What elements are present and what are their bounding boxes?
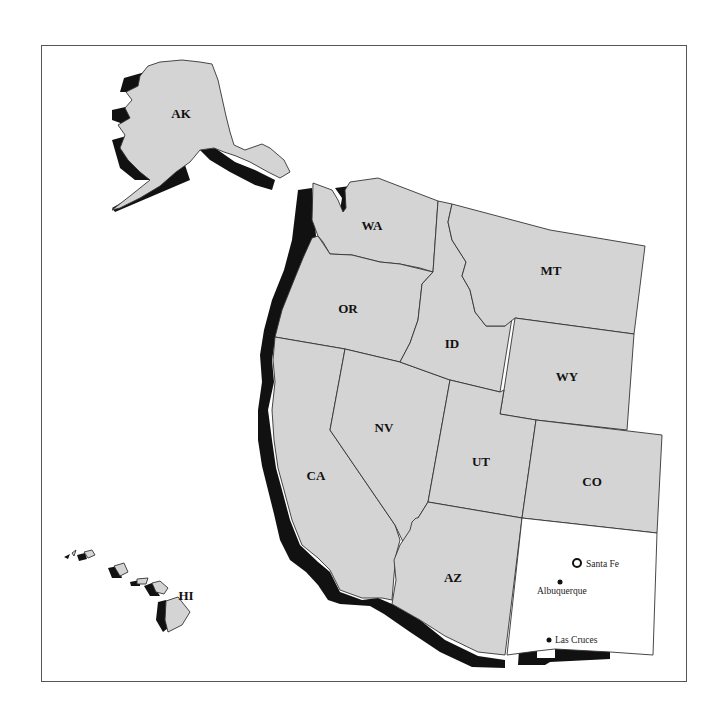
state-mt[interactable]: MT bbox=[448, 204, 645, 334]
city-label-santa-fe: Santa Fe bbox=[586, 559, 619, 569]
label-hi: HI bbox=[178, 588, 193, 603]
city-label-albuquerque: Albuquerque bbox=[537, 586, 587, 596]
label-nv: NV bbox=[375, 420, 394, 435]
state-ak[interactable]: AK bbox=[112, 60, 290, 212]
western-us-map: AK HI WA OR CA NV ID MT WY bbox=[0, 0, 723, 718]
hi-shape bbox=[72, 550, 190, 632]
label-az: AZ bbox=[444, 570, 462, 585]
dot-icon bbox=[547, 638, 552, 643]
label-wy: WY bbox=[556, 369, 579, 384]
city-las-cruces[interactable]: Las Cruces bbox=[547, 635, 598, 645]
label-wa: WA bbox=[362, 218, 384, 233]
state-hi[interactable]: HI bbox=[64, 550, 194, 632]
hi-shadow bbox=[64, 553, 168, 632]
state-co[interactable]: CO bbox=[522, 420, 662, 533]
label-or: OR bbox=[338, 301, 358, 316]
state-nm[interactable]: Santa Fe Albuquerque Las Cruces bbox=[507, 518, 657, 665]
city-label-las-cruces: Las Cruces bbox=[555, 635, 598, 645]
ak-shape bbox=[112, 60, 290, 210]
state-wy[interactable]: WY bbox=[500, 318, 634, 430]
label-ak: AK bbox=[171, 106, 191, 121]
label-mt: MT bbox=[541, 263, 562, 278]
label-ca: CA bbox=[307, 468, 326, 483]
label-id: ID bbox=[445, 336, 459, 351]
label-co: CO bbox=[582, 474, 602, 489]
label-ut: UT bbox=[472, 454, 490, 469]
star-circle-icon bbox=[573, 559, 581, 567]
dot-icon bbox=[558, 580, 563, 585]
